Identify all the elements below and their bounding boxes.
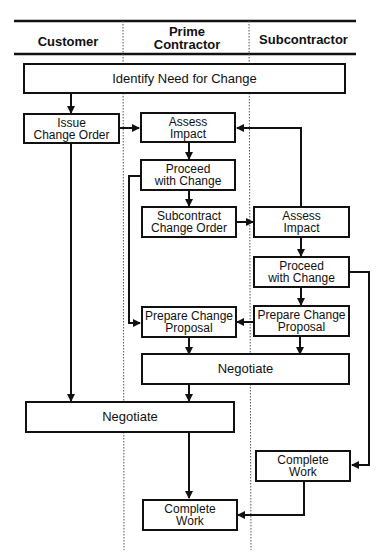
lane-header-prime-contractor: Prime Contractor bbox=[124, 25, 250, 51]
node-prime-assess-impact: Assess Impact bbox=[140, 112, 236, 143]
node-prime-complete-work: Complete Work bbox=[142, 499, 238, 531]
node-subcontract-change-order: Subcontract Change Order bbox=[141, 206, 237, 238]
node-prime-prepare-change-proposal: Prepare Change Proposal bbox=[141, 306, 237, 338]
arrow-proceed-to-prime-prepare bbox=[129, 176, 141, 323]
node-issue-change-order: Issue Change Order bbox=[23, 113, 120, 144]
node-identify-need-for-change: Identify Need for Change bbox=[23, 63, 346, 94]
node-sub-proceed-with-change: Proceed with Change bbox=[253, 256, 350, 288]
node-negotiate-prime-sub: Negotiate bbox=[141, 353, 350, 385]
node-sub-assess-impact: Assess Impact bbox=[253, 206, 350, 238]
node-negotiate-customer-prime: Negotiate bbox=[25, 401, 235, 433]
lane-divider-2 bbox=[249, 21, 251, 550]
node-sub-prepare-change-proposal: Prepare Change Proposal bbox=[253, 305, 350, 337]
lane-divider-1 bbox=[123, 21, 124, 550]
node-prime-proceed-with-change: Proceed with Change bbox=[140, 159, 236, 191]
node-sub-complete-work: Complete Work bbox=[255, 450, 351, 482]
arrow-sub-proceed-to-complete bbox=[349, 272, 369, 465]
lane-header-customer: Customer bbox=[14, 35, 122, 48]
arrow-sub-complete-to-prime-complete bbox=[238, 481, 304, 515]
arrow-sub-assess-to-prime-assess bbox=[237, 128, 301, 206]
lane-header-subcontractor: Subcontractor bbox=[251, 33, 356, 46]
